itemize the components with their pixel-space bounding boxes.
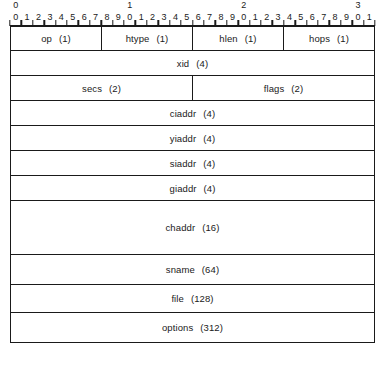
field-size: (4) bbox=[196, 58, 208, 69]
ruler-bit-label: 2 bbox=[36, 12, 41, 23]
field-name: xid bbox=[177, 58, 189, 69]
field-name: hlen bbox=[219, 33, 237, 44]
ruler-bit-label: 1 bbox=[253, 12, 258, 23]
ruler-bit-label: 1 bbox=[25, 12, 30, 23]
ruler-bit-label: 9 bbox=[116, 12, 121, 23]
field-name: chaddr bbox=[166, 222, 196, 233]
field-name: hops bbox=[309, 33, 330, 44]
field-name: sname bbox=[166, 264, 195, 275]
packet-row: file(128) bbox=[11, 285, 374, 313]
ruler-bit-label: 6 bbox=[82, 12, 87, 23]
field-size: (2) bbox=[109, 83, 121, 94]
field-name: file bbox=[171, 293, 184, 304]
ruler-bit-label: 5 bbox=[298, 12, 303, 23]
ruler-bit-label: 6 bbox=[310, 12, 315, 23]
field-name: siaddr bbox=[170, 158, 196, 169]
ruler-bit-label: 0 bbox=[355, 12, 360, 23]
packet-field-chaddr: chaddr(16) bbox=[11, 201, 374, 254]
ruler-decade-label: 3 bbox=[355, 0, 360, 11]
packet-field-xid: xid(4) bbox=[11, 51, 374, 75]
packet-field-htype: htype(1) bbox=[101, 26, 192, 50]
packet-row: siaddr(4) bbox=[11, 151, 374, 176]
packet-field-hlen: hlen(1) bbox=[192, 26, 283, 50]
packet-field-sname: sname(64) bbox=[11, 255, 374, 284]
ruler-bit-label: 8 bbox=[104, 12, 109, 23]
ruler-bit-label: 4 bbox=[59, 12, 64, 23]
ruler-decade-label: 1 bbox=[127, 0, 132, 11]
ruler-bit-label: 7 bbox=[321, 12, 326, 23]
packet-field-file: file(128) bbox=[11, 285, 374, 312]
ruler-bit-label: 3 bbox=[161, 12, 166, 23]
ruler-bit-label: 4 bbox=[287, 12, 292, 23]
ruler-bit-label: 1 bbox=[139, 12, 144, 23]
field-size: (4) bbox=[203, 158, 215, 169]
field-size: (1) bbox=[59, 33, 71, 44]
packet-row: giaddr(4) bbox=[11, 176, 374, 201]
field-size: (2) bbox=[291, 83, 303, 94]
packet-row: yiaddr(4) bbox=[11, 126, 374, 151]
packet-field-hops: hops(1) bbox=[283, 26, 374, 50]
packet-field-giaddr: giaddr(4) bbox=[11, 176, 374, 200]
ruler-bit-label: 7 bbox=[93, 12, 98, 23]
ruler-bit-label: 5 bbox=[70, 12, 75, 23]
field-name: flags bbox=[264, 83, 285, 94]
ruler-bit-label: 0 bbox=[127, 12, 132, 23]
ruler-bit-label: 8 bbox=[333, 12, 338, 23]
field-name: yiaddr bbox=[170, 133, 196, 144]
packet-row: op(1)htype(1)hlen(1)hops(1) bbox=[11, 26, 374, 51]
ruler-bit-label: 6 bbox=[196, 12, 201, 23]
packet-field-flags: flags(2) bbox=[192, 76, 374, 100]
field-size: (1) bbox=[156, 33, 168, 44]
ruler-bit-label: 3 bbox=[276, 12, 281, 23]
field-name: op bbox=[41, 33, 52, 44]
field-name: htype bbox=[126, 33, 150, 44]
packet-row: secs(2)flags(2) bbox=[11, 76, 374, 101]
ruler-bit-label: 0 bbox=[13, 12, 18, 23]
ruler-bit-label: 2 bbox=[150, 12, 155, 23]
ruler-bit-label: 2 bbox=[264, 12, 269, 23]
field-size: (312) bbox=[200, 322, 223, 333]
ruler-bit-label: 8 bbox=[219, 12, 224, 23]
packet-format-diagram: 0123 01234567890123456789012345678901 op… bbox=[0, 0, 384, 379]
field-name: ciaddr bbox=[170, 108, 196, 119]
field-size: (64) bbox=[202, 264, 219, 275]
field-size: (4) bbox=[203, 133, 215, 144]
field-size: (4) bbox=[203, 108, 215, 119]
ruler-bit-label: 0 bbox=[241, 12, 246, 23]
field-name: options bbox=[162, 322, 193, 333]
packet-row: chaddr(16) bbox=[11, 201, 374, 255]
packet-row: ciaddr(4) bbox=[11, 101, 374, 126]
packet-row: options(312) bbox=[11, 313, 374, 343]
packet-fields-table: op(1)htype(1)hlen(1)hops(1)xid(4)secs(2)… bbox=[10, 26, 375, 343]
field-size: (16) bbox=[202, 222, 219, 233]
packet-field-options: options(312) bbox=[11, 313, 374, 342]
packet-field-ciaddr: ciaddr(4) bbox=[11, 101, 374, 125]
ruler-bit-label: 7 bbox=[207, 12, 212, 23]
packet-row: sname(64) bbox=[11, 255, 374, 285]
field-size: (128) bbox=[191, 293, 214, 304]
field-size: (4) bbox=[204, 183, 216, 194]
packet-field-secs: secs(2) bbox=[11, 76, 192, 100]
ruler-bit-label: 3 bbox=[47, 12, 52, 23]
ruler-bit-label: 4 bbox=[173, 12, 178, 23]
field-size: (1) bbox=[337, 33, 349, 44]
field-size: (1) bbox=[245, 33, 257, 44]
packet-field-op: op(1) bbox=[11, 26, 101, 50]
ruler-bit-label: 5 bbox=[184, 12, 189, 23]
packet-row: xid(4) bbox=[11, 51, 374, 76]
field-name: giaddr bbox=[170, 183, 197, 194]
packet-field-siaddr: siaddr(4) bbox=[11, 151, 374, 175]
bit-ruler-decade-row: 0123 bbox=[10, 0, 375, 12]
packet-field-yiaddr: yiaddr(4) bbox=[11, 126, 374, 150]
field-name: secs bbox=[82, 83, 102, 94]
ruler-decade-label: 0 bbox=[13, 0, 18, 11]
ruler-decade-label: 2 bbox=[241, 0, 246, 11]
ruler-bit-label: 9 bbox=[230, 12, 235, 23]
ruler-bit-label: 9 bbox=[344, 12, 349, 23]
ruler-bit-label: 1 bbox=[367, 12, 372, 23]
